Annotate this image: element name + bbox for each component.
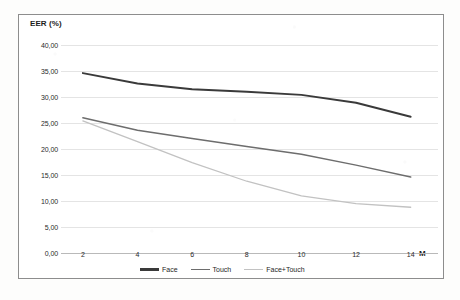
legend-item: Face+Touch [244,266,304,273]
series-line [83,118,411,177]
legend-swatch [191,269,210,271]
legend-item: Face [140,266,178,273]
legend-label: Face+Touch [266,266,304,273]
chart-series-layer [0,0,460,300]
legend-item: Touch [191,266,232,273]
series-line [83,73,411,117]
legend-swatch [140,268,159,270]
legend-label: Face [162,266,178,273]
chart-figure: EER (%) M 40,0035,0030,0025,0020,0015,00… [0,0,460,300]
series-line [83,121,411,207]
legend-label: Touch [213,266,232,273]
chart-legend: FaceTouchFace+Touch [140,266,305,273]
legend-swatch [244,269,263,270]
